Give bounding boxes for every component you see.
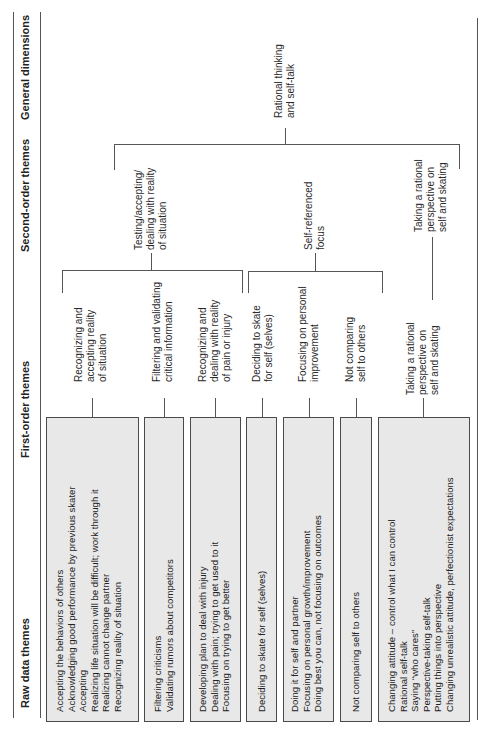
raw-data-text-3: Developing plan to deal with injury Deal…	[197, 542, 232, 712]
bracket-1-right-leg	[242, 270, 243, 293]
top-bracket-left-leg	[114, 144, 115, 170]
top-bracket-horizontal	[114, 144, 459, 145]
header-raw-data-themes: Raw data themes	[19, 618, 32, 708]
first-order-label-4: Deciding to skate for self (selves)	[251, 305, 275, 382]
first-order-label-6: Not comparing self to others	[344, 317, 368, 382]
stub-box-7	[423, 398, 424, 417]
second-order-stub-self-referenced	[315, 253, 316, 271]
general-dimension-label: Rational thinking and self-talk	[273, 44, 297, 118]
raw-data-text-1: Accepting the behaviors of others Acknow…	[54, 486, 123, 712]
second-order-label-testing: Testing/accepting/ dealing with reality …	[133, 168, 169, 250]
bracket-1-left-leg	[62, 270, 63, 293]
stub-box-5	[309, 398, 310, 417]
right-border-rule	[477, 18, 478, 720]
stub-box-1	[92, 398, 93, 417]
raw-data-text-7: Changing attitude – control what I can c…	[386, 477, 455, 712]
bracket-1-horizontal	[62, 270, 243, 271]
second-order-label-rational-perspective: Taking a rational perspective on self an…	[413, 159, 449, 232]
header-rule-left	[13, 12, 14, 718]
raw-data-text-4: Deciding to skate for self (selves)	[256, 571, 268, 712]
raw-data-text-6: Not comparing self to others	[350, 592, 362, 712]
top-bracket-right-leg	[459, 144, 460, 169]
stub-box-3	[215, 398, 216, 417]
bracket-2-horizontal	[248, 271, 382, 272]
header-rule-right	[40, 12, 41, 718]
general-stub	[285, 128, 286, 144]
header-first-order-themes: First-order themes	[19, 361, 32, 458]
first-order-label-3: Recognizing and dealing with reality of …	[197, 300, 233, 382]
rational-perspective-connector	[432, 237, 433, 300]
raw-data-text-2: Filtering criticisms Validating rumors a…	[152, 559, 175, 712]
header-second-order-themes: Second-order themes	[19, 139, 32, 252]
stub-box-6	[356, 398, 357, 417]
raw-data-text-5: Doing it for self and partner Focusing o…	[289, 515, 324, 712]
header-general-dimensions: General dimensions	[19, 15, 32, 120]
bracket-2-left-leg	[248, 271, 249, 293]
second-order-label-self-referenced: Self-referenced focus	[303, 182, 327, 250]
second-order-stub-testing	[151, 253, 152, 270]
first-order-label-7: Taking a rational perspective on self an…	[405, 322, 441, 395]
first-order-label-5: Focusing on personal improvement	[297, 286, 321, 382]
stub-box-2	[164, 398, 165, 417]
stub-box-4	[262, 398, 263, 417]
first-order-label-2: Filtering and validating critical inform…	[151, 282, 175, 382]
first-order-label-1: Recognizing and accepting reality of sit…	[73, 308, 109, 383]
bracket-2-right-leg	[382, 271, 383, 293]
